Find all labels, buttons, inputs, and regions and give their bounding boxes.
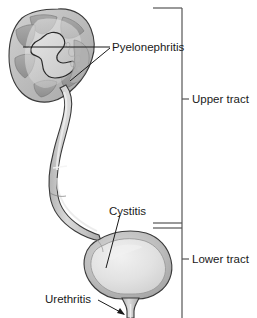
figure-canvas: Pyelonephritis Cystitis Urethritis Upper… bbox=[0, 0, 257, 318]
kidney bbox=[9, 9, 94, 102]
label-cystitis: Cystitis bbox=[109, 205, 146, 217]
label-upper-tract: Upper tract bbox=[192, 93, 250, 105]
ureter-lumen-lower bbox=[57, 178, 97, 231]
label-pyelonephritis: Pyelonephritis bbox=[112, 41, 184, 53]
label-urethritis: Urethritis bbox=[45, 293, 91, 305]
bladder bbox=[84, 231, 172, 299]
leader-urethritis-arrowhead bbox=[117, 308, 125, 315]
ureter bbox=[49, 85, 101, 241]
urinary-tract-diagram: Pyelonephritis Cystitis Urethritis Upper… bbox=[0, 0, 257, 318]
label-lower-tract: Lower tract bbox=[192, 253, 250, 265]
urethra bbox=[122, 298, 139, 318]
